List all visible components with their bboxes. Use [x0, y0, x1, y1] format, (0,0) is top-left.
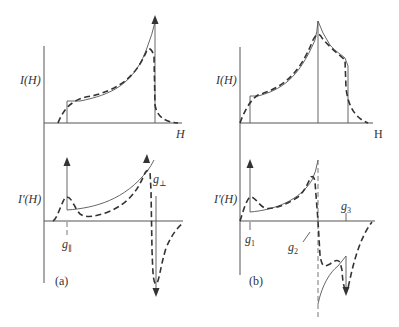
panel-a-absorption-ylabel: I(H) — [19, 73, 41, 87]
panel-b-g1-arrow-icon — [247, 159, 254, 168]
panel-a-gpar-arrow-icon — [64, 157, 71, 166]
panel-b-caption: (b) — [249, 274, 263, 288]
panel-b-g3-label: g3 — [341, 199, 351, 215]
panel-b: I(H) H I′(H) g1 g2 g3 ( — [213, 21, 383, 320]
epr-powder-pattern-figure: I(H) H I′(H) g∥ g⊥ (a) — [0, 0, 399, 327]
panel-a-broadened-absorption-curve — [58, 49, 178, 123]
panel-a-derivative-ylabel: I′(H) — [17, 192, 41, 206]
panel-b-ideal-absorption-curve — [250, 21, 348, 123]
panel-b-g1-label: g1 — [245, 232, 255, 248]
panel-a-absorption-xlabel: H — [175, 127, 186, 141]
panel-b-g2-label: g2 — [288, 240, 298, 256]
panel-b-broadened-derivative-curve — [240, 177, 372, 290]
panel-a-gperp-peak-arrow-icon — [143, 154, 150, 163]
panel-a-gperp-down-arrow-icon — [153, 288, 160, 297]
panel-b-absorption-ylabel: I(H) — [215, 73, 237, 87]
panel-a: I(H) H I′(H) g∥ g⊥ (a) — [17, 15, 186, 297]
panel-b-absorption-plot: I(H) H — [215, 21, 383, 275]
panel-a-gpar-label: g∥ — [62, 237, 72, 253]
panel-a-absorption-plot: I(H) H — [19, 15, 186, 283]
panel-a-top-peak-arrow-icon — [152, 15, 159, 24]
panel-a-gperp-label: g⊥ — [153, 172, 167, 188]
panel-b-derivative-plot: I′(H) g1 g2 g3 (b) — [213, 159, 375, 320]
panel-a-caption: (a) — [55, 274, 68, 288]
panel-a-ideal-absorption-curve — [67, 22, 155, 123]
panel-b-g2-leader — [303, 232, 310, 242]
panel-b-absorption-xlabel: H — [374, 127, 383, 141]
panel-b-broadened-absorption-curve — [240, 34, 368, 123]
panel-a-ideal-derivative-curve — [67, 160, 154, 210]
panel-b-derivative-ylabel: I′(H) — [213, 192, 237, 206]
panel-a-derivative-plot: I′(H) g∥ g⊥ (a) — [17, 154, 183, 297]
